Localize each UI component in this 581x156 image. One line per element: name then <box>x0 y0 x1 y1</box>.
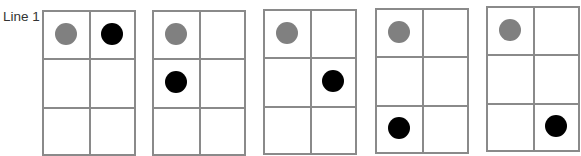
grid-panel-4 <box>375 8 469 154</box>
black-dot-icon <box>388 117 410 139</box>
grid-divider-horizontal <box>154 107 244 109</box>
black-dot-icon <box>545 115 567 137</box>
grid-divider-vertical <box>533 8 535 150</box>
grid-divider-horizontal <box>265 57 355 59</box>
grid-divider-horizontal <box>44 58 134 60</box>
grid-panel-5 <box>486 6 580 152</box>
grid-divider-vertical <box>310 11 312 153</box>
black-dot-icon <box>322 70 344 92</box>
gray-dot-icon <box>499 19 521 41</box>
grid-divider-vertical <box>422 10 424 152</box>
black-dot-icon <box>101 23 123 45</box>
grid-divider-horizontal <box>377 56 467 58</box>
grid-divider-horizontal <box>377 105 467 107</box>
gray-dot-icon <box>276 22 298 44</box>
grid-panel-2 <box>152 10 246 156</box>
grid-divider-horizontal <box>488 103 578 105</box>
grid-divider-horizontal <box>488 54 578 56</box>
gray-dot-icon <box>165 23 187 45</box>
grid-divider-horizontal <box>265 106 355 108</box>
black-dot-icon <box>165 71 187 93</box>
grid-panel-1 <box>42 10 136 156</box>
grid-divider-horizontal <box>154 58 244 60</box>
gray-dot-icon <box>388 21 410 43</box>
grid-divider-vertical <box>199 12 201 154</box>
grid-divider-horizontal <box>44 107 134 109</box>
grid-divider-vertical <box>89 12 91 154</box>
gray-dot-icon <box>55 23 77 45</box>
grid-panel-3 <box>263 9 357 155</box>
row-label: Line 1 <box>3 9 40 24</box>
